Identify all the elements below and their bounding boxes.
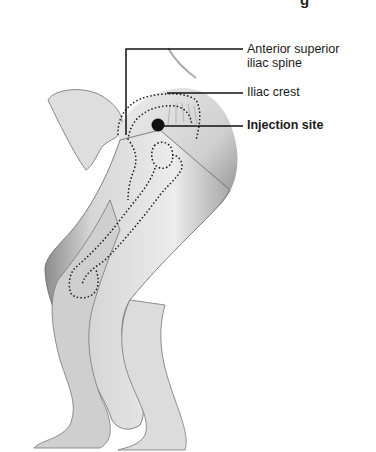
label-injection-site: Injection site	[247, 118, 323, 132]
raised-thigh	[48, 90, 123, 170]
injection-site-dot	[152, 119, 165, 132]
label-asis: Anterior superior iliac spine	[247, 42, 339, 70]
label-asis-line2: iliac spine	[247, 56, 339, 70]
label-asis-line1: Anterior superior	[247, 42, 339, 56]
label-iliac-crest: Iliac crest	[247, 85, 300, 99]
torso-contour	[168, 48, 196, 78]
